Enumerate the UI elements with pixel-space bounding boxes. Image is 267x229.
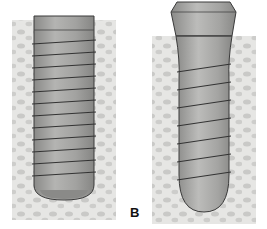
implant-a-illustration [0,0,130,229]
implant-a-panel [0,0,130,229]
implant-b-illustration [130,0,267,229]
implant-b-panel [130,0,267,229]
panel-label-b: B [130,205,139,220]
